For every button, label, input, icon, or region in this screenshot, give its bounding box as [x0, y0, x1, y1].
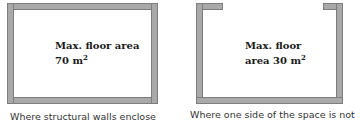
- left-room-top-wall: [7, 3, 158, 10]
- left-caption: Where structural walls enclose: [10, 111, 156, 122]
- left-room-area-label: Max. floor area 70 m2: [55, 38, 139, 68]
- right-room-left-wall: [196, 3, 203, 104]
- right-caption: Where one side of the space is not: [190, 109, 355, 120]
- right-room-bottom-wall: [196, 97, 343, 104]
- left-room-bottom-wall: [7, 97, 158, 104]
- right-room-right-wall: [336, 3, 343, 104]
- left-room-left-wall: [7, 3, 14, 104]
- left-room-right-wall: [151, 3, 158, 104]
- right-room-area-label: Max. floor area 30 m2: [245, 38, 306, 68]
